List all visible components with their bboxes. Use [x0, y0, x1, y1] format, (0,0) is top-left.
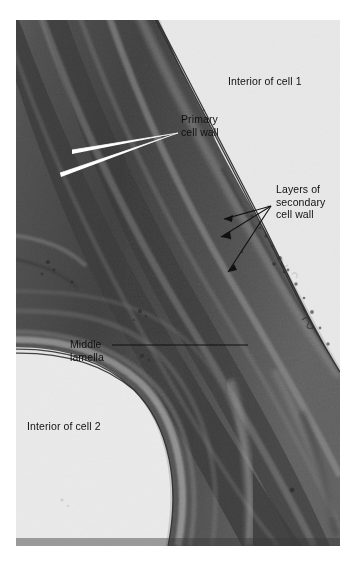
label-primary-cell-wall: Primary cell wall [181, 113, 219, 138]
cell-wall-micrograph-figure: Interior of cell 1 Primary cell wall Lay… [0, 0, 353, 564]
label-layers-of-secondary-cell-wall: Layers of secondary cell wall [276, 183, 325, 221]
label-interior-of-cell-2: Interior of cell 2 [27, 420, 101, 433]
micrograph-image [16, 20, 340, 546]
label-middle-lamella: Middle lamella [70, 338, 104, 363]
micrograph-plate [16, 20, 340, 546]
label-interior-of-cell-1: Interior of cell 1 [228, 75, 302, 88]
